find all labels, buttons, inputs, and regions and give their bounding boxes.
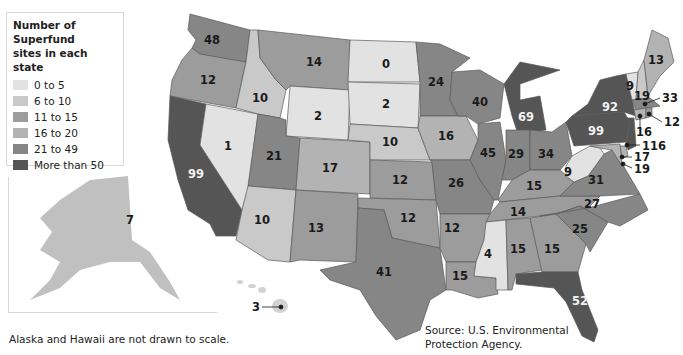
- label-nh: 19: [634, 89, 650, 103]
- label-pa: 99: [588, 124, 604, 138]
- label-oh: 34: [538, 147, 554, 161]
- alaska-hawaii-inset-frame: [8, 177, 217, 313]
- label-tn: 14: [510, 205, 526, 219]
- label-nd: 0: [382, 57, 390, 71]
- label-nv: 1: [224, 139, 232, 153]
- label-ok: 12: [400, 211, 416, 225]
- label-vt: 9: [626, 79, 634, 93]
- label-wv: 9: [564, 165, 572, 179]
- legend-item: 11 to 15: [13, 109, 117, 125]
- label-mn: 24: [428, 75, 444, 89]
- label-ia: 16: [438, 129, 454, 143]
- label-mt: 14: [306, 55, 322, 69]
- label-fl: 52: [572, 294, 588, 308]
- label-al: 15: [510, 242, 526, 256]
- label-wi: 40: [472, 95, 488, 109]
- label-va: 31: [588, 173, 604, 187]
- label-ms: 4: [484, 247, 492, 261]
- label-nc: 27: [584, 197, 600, 211]
- legend-swatch: [13, 80, 28, 90]
- legend-swatch: [13, 128, 28, 138]
- label-mo: 26: [448, 176, 464, 190]
- label-tx: 41: [376, 265, 392, 279]
- label-ky: 15: [526, 179, 542, 193]
- label-wy: 2: [314, 109, 322, 123]
- legend-swatch: [13, 144, 28, 154]
- source-note: Source: U.S. Environmental Protection Ag…: [425, 323, 569, 351]
- label-ne: 10: [382, 135, 398, 149]
- label-me: 13: [648, 53, 664, 67]
- legend-item: 6 to 10: [13, 93, 117, 109]
- label-il: 45: [480, 146, 496, 160]
- label-mi: 69: [518, 110, 534, 124]
- legend-swatch: [13, 160, 28, 170]
- label-ar: 12: [444, 221, 460, 235]
- label-ut: 21: [266, 149, 282, 163]
- label-ga: 15: [544, 242, 560, 256]
- legend-title: Number of Superfund sites in each state: [13, 18, 117, 74]
- label-ny: 92: [602, 100, 618, 114]
- label-co: 17: [322, 161, 338, 175]
- label-ct: 16: [636, 125, 652, 139]
- label-ma: 33: [662, 91, 678, 105]
- label-in: 29: [508, 147, 524, 161]
- label-wa: 48: [204, 33, 220, 47]
- label-sd: 2: [382, 97, 390, 111]
- legend-item: More than 50: [13, 157, 117, 173]
- label-or: 12: [200, 73, 216, 87]
- legend-item: 21 to 49: [13, 141, 117, 157]
- legend: Number of Superfund sites in each state …: [6, 12, 124, 166]
- legend-swatch: [13, 96, 28, 106]
- label-ks: 12: [392, 173, 408, 187]
- label-sc: 25: [572, 222, 588, 236]
- legend-swatch: [13, 112, 28, 122]
- label-la: 15: [452, 269, 468, 283]
- label-hi: 3: [252, 300, 260, 314]
- legend-item: 0 to 5: [13, 77, 117, 93]
- label-md: 19: [634, 162, 650, 176]
- label-id: 10: [252, 91, 268, 105]
- legend-item: 16 to 20: [13, 125, 117, 141]
- label-az: 10: [254, 213, 270, 227]
- label-nm: 13: [308, 221, 324, 235]
- scale-note: Alaska and Hawaii are not drawn to scale…: [9, 333, 229, 345]
- label-ri: 12: [664, 115, 680, 129]
